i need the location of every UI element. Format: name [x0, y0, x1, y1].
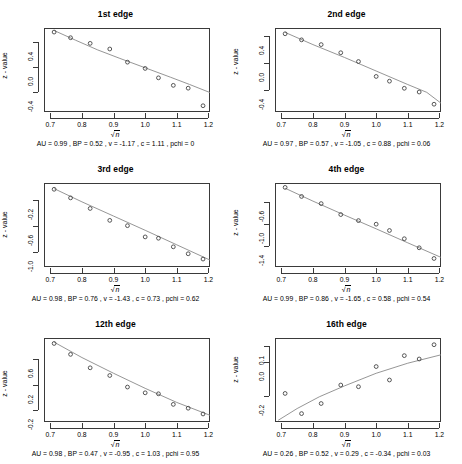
data-point	[339, 51, 343, 55]
data-point	[357, 60, 361, 64]
x-tick-label: 0.7	[269, 431, 293, 438]
data-point	[108, 218, 112, 222]
x-tick-mark	[345, 268, 346, 273]
x-tick-mark	[50, 423, 51, 428]
panel-title: 3rd edge	[0, 164, 231, 174]
x-tick-mark	[208, 113, 209, 118]
x-tick-mark	[208, 423, 209, 428]
y-axis-line	[269, 202, 270, 246]
data-point	[143, 235, 147, 239]
x-tick-label: 1.2	[196, 431, 220, 438]
x-tick-mark	[114, 268, 115, 273]
x-axis-label: √n	[0, 130, 231, 138]
x-tick-label: 0.7	[38, 121, 62, 128]
panel-2: 2nd edge0.40.0-0.4z - value0.70.80.91.01…	[231, 0, 462, 155]
data-point	[171, 83, 175, 87]
x-tick-mark	[82, 268, 83, 273]
x-tick-label: 0.9	[333, 121, 357, 128]
data-point	[374, 75, 378, 79]
y-axis-line	[38, 42, 39, 92]
x-tick-label: 0.9	[333, 431, 357, 438]
panel-statistics-caption: AU = 0.99 , BP = 0.86 , v = -1.65 , c = …	[231, 295, 462, 302]
data-point	[432, 257, 436, 261]
data-point	[319, 402, 323, 406]
data-point	[283, 185, 287, 189]
x-tick-label: 0.8	[301, 431, 325, 438]
y-tick-label: -0.4	[27, 91, 34, 121]
x-tick-mark	[281, 268, 282, 273]
x-tick-mark	[50, 113, 51, 118]
panel-5: 12th edge0.60.2-0.2z - value0.70.80.91.0…	[0, 310, 231, 464]
x-tick-mark	[313, 423, 314, 428]
y-axis-line	[38, 200, 39, 253]
data-point	[388, 79, 392, 83]
data-point	[69, 352, 73, 356]
x-tick-mark	[439, 113, 440, 118]
panel-statistics-caption: AU = 0.98 , BP = 0.76 , v = -1.43 , c = …	[0, 295, 231, 302]
x-tick-label: 1.1	[396, 121, 420, 128]
data-layer	[275, 28, 441, 112]
x-tick-mark	[145, 423, 146, 428]
data-layer	[275, 338, 441, 422]
y-axis-label: z - value	[232, 48, 239, 74]
data-point	[88, 41, 92, 45]
fitted-curve	[278, 355, 441, 421]
y-tick-label: -1.0	[27, 252, 34, 282]
x-axis-label: √n	[231, 440, 462, 448]
panel-title: 12th edge	[0, 319, 231, 329]
data-layer	[44, 183, 210, 267]
y-tick-label: 0.0	[258, 362, 265, 392]
x-tick-label: 1.0	[364, 276, 388, 283]
data-point	[300, 412, 304, 416]
data-point	[432, 343, 436, 347]
x-tick-mark	[408, 113, 409, 118]
x-tick-mark	[177, 113, 178, 118]
x-axis-label: √n	[231, 130, 462, 138]
y-tick-label: 0.4	[258, 36, 265, 66]
data-point	[388, 229, 392, 233]
x-axis-label-operand: n	[114, 285, 120, 293]
sqrt-icon: √n	[342, 285, 352, 293]
y-tick-mark	[264, 362, 269, 363]
data-point	[402, 354, 406, 358]
x-tick-label: 0.8	[301, 276, 325, 283]
data-point	[126, 385, 130, 389]
x-axis-line	[281, 118, 439, 119]
y-axis-label: z - value	[1, 370, 8, 396]
x-tick-mark	[82, 423, 83, 428]
data-point	[52, 342, 56, 346]
y-axis-label: z - value	[232, 209, 239, 235]
data-point	[319, 43, 323, 47]
x-tick-label: 1.0	[364, 431, 388, 438]
y-tick-mark	[264, 202, 269, 203]
x-tick-label: 1.2	[427, 121, 451, 128]
data-point	[88, 366, 92, 370]
x-tick-label: 1.1	[165, 121, 189, 128]
panel-statistics-caption: AU = 0.99 , BP = 0.52 , v = -1.17 , c = …	[0, 140, 231, 147]
x-axis-label: √n	[0, 285, 231, 293]
data-point	[432, 102, 436, 106]
y-tick-label: 0.0	[258, 63, 265, 93]
fitted-curve	[54, 342, 210, 415]
y-tick-mark	[33, 252, 38, 253]
x-tick-label: 1.1	[165, 431, 189, 438]
x-tick-mark	[345, 423, 346, 428]
x-axis-label: √n	[0, 440, 231, 448]
x-axis-line	[281, 428, 439, 429]
y-tick-mark	[33, 226, 38, 227]
data-point	[157, 236, 161, 240]
data-point	[171, 402, 175, 406]
x-tick-label: 1.2	[196, 121, 220, 128]
x-tick-label: 0.9	[102, 431, 126, 438]
sqrt-icon: √n	[342, 440, 352, 448]
y-tick-mark	[33, 410, 38, 411]
fitted-curve	[54, 189, 210, 260]
pvclust-diagnostic-figure: 1st edge0.40.0-0.4z - value0.70.80.91.01…	[0, 0, 462, 464]
panel-statistics-caption: AU = 0.26 , BP = 0.52 , v = 0.29 , c = -…	[231, 450, 462, 457]
y-tick-mark	[33, 42, 38, 43]
x-tick-mark	[208, 268, 209, 273]
data-layer	[275, 183, 441, 267]
data-point	[374, 365, 378, 369]
x-tick-label: 0.7	[269, 121, 293, 128]
y-tick-label: -0.4	[258, 90, 265, 120]
